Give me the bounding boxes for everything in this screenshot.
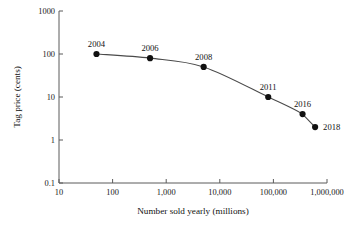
x-axis-title: Number sold yearly (millions) [137,206,249,216]
y-axis-ticks [59,11,63,183]
y-tick-label-1: 1 [51,136,55,145]
point-label-2006: 2006 [141,43,159,53]
x-tick-label-100000: 100,000 [260,188,287,197]
x-tick-label-1000: 1,000 [157,188,176,197]
point-label-2016: 2016 [294,99,312,109]
y-axis-title: Tag price (cents) [12,66,22,128]
y-tick-label-0.1: 0.1 [45,179,55,188]
point-label-2008: 2008 [195,52,212,62]
data-point-2008 [201,64,207,70]
axis-lines [59,11,327,183]
y-tick-label-100: 100 [42,50,55,59]
y-tick-label-1000: 1000 [38,7,55,16]
x-axis-ticks [59,179,327,183]
data-point-2016 [299,111,305,117]
y-tick-label-10: 10 [47,93,55,102]
data-point-2006 [147,55,153,61]
point-label-2018: 2018 [323,122,340,132]
data-point-2004 [93,51,99,57]
x-tick-label-10: 10 [55,188,63,197]
chart-figure: 1000 100 10 1 0.1 10 100 1,000 10,000 10… [0,0,355,232]
data-point-2018 [312,124,318,130]
point-label-2011: 2011 [260,82,277,92]
data-point-2011 [265,94,271,100]
log-log-line-chart: 1000 100 10 1 0.1 10 100 1,000 10,000 10… [0,0,355,232]
x-tick-label-1000000: 1,000,000 [310,188,344,197]
x-tick-label-100: 100 [106,188,119,197]
x-tick-label-10000: 10,000 [208,188,231,197]
data-point-labels: 200420062008201120162018 [88,39,340,132]
data-series-markers [93,51,318,130]
point-label-2004: 2004 [88,39,106,49]
